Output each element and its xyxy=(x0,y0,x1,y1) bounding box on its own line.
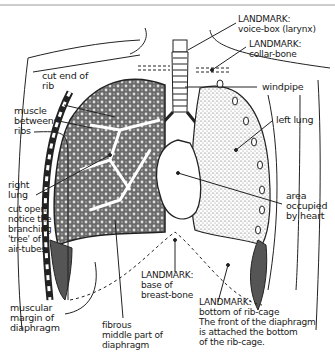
label-collar-bone: LANDMARK: collar-bone xyxy=(249,39,301,59)
label-base-breast-bone: LANDMARK: base of breast-bone xyxy=(141,270,193,300)
label-cut-open-note: cut open: notice the branching 'tree' of… xyxy=(8,204,51,254)
label-muscle-between-ribs: muscle between ribs xyxy=(14,106,54,136)
label-fibrous-middle: fibrous middle part of diaphragm xyxy=(102,320,163,350)
label-voice-box: LANDMARK: voice-box (larynx) xyxy=(238,14,316,34)
right-lung-drawing xyxy=(54,79,165,245)
label-left-lung: left lung xyxy=(276,115,313,125)
label-bottom-rib-cage: LANDMARK: bottom of rib-cage The front o… xyxy=(199,297,316,347)
anatomy-diagram: LANDMARK: voice-box (larynx) LANDMARK: c… xyxy=(0,0,335,361)
label-windpipe: windpipe xyxy=(262,82,303,92)
label-muscular-margin: muscular margin of diaphragm xyxy=(10,303,60,333)
label-right-lung: right lung xyxy=(8,180,29,200)
label-heart-area: area occupied by heart xyxy=(286,191,327,221)
label-cut-end-rib: cut end of rib xyxy=(42,71,88,91)
